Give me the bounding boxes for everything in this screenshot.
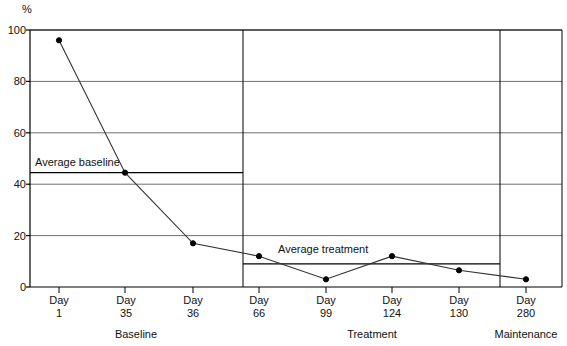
data-point-124 xyxy=(389,254,394,259)
x-tick-marks-group xyxy=(59,287,526,293)
data-point-1 xyxy=(56,38,61,43)
data-series-line xyxy=(59,40,526,279)
plot-area xyxy=(0,0,567,346)
data-point-99 xyxy=(323,277,328,282)
data-markers-group xyxy=(56,38,528,282)
data-point-36 xyxy=(190,241,195,246)
data-point-35 xyxy=(122,170,127,175)
reference-lines-group xyxy=(30,173,500,264)
gridlines-group xyxy=(30,30,562,236)
data-line-group xyxy=(59,40,526,279)
chart-container: % 100 80 60 40 20 0 Average baseline Ave… xyxy=(0,0,567,346)
data-point-280 xyxy=(523,277,528,282)
axis-frame-group xyxy=(26,30,562,287)
data-point-66 xyxy=(256,254,261,259)
section-dividers-group xyxy=(243,30,500,287)
data-point-130 xyxy=(456,268,461,273)
